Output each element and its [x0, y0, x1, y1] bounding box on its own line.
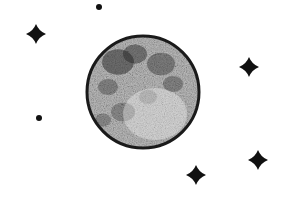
- star-icon: [239, 57, 259, 77]
- star-icon: [248, 150, 268, 170]
- crater-patch: [147, 53, 175, 75]
- dot-icon: [96, 4, 102, 10]
- star-icon: [186, 165, 206, 185]
- crater-patch: [98, 79, 118, 95]
- star-icon: [26, 24, 46, 44]
- moon: [87, 36, 199, 148]
- moon-and-stars-illustration: [0, 0, 296, 200]
- dot-icon: [36, 115, 42, 121]
- crater-patch: [123, 44, 147, 63]
